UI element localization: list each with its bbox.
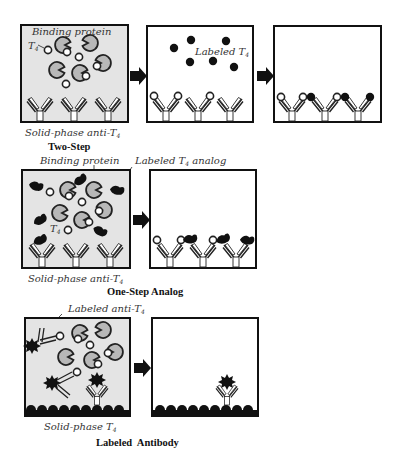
- label-labeled-t4: Labeled T4: [194, 46, 249, 58]
- label-labeled-anti-t4: Labeled anti-T4: [67, 303, 145, 315]
- title-one-step-analog: One-Step Analog: [107, 286, 184, 297]
- label-solid-phase-2: Solid-phase anti-T4: [28, 273, 123, 285]
- label-solid-phase-t4: Solid-phase T4: [44, 421, 117, 433]
- panel-labeled-antibody-wash: [152, 318, 258, 416]
- label-labeled-analog: Labeled T4 analog: [134, 155, 226, 167]
- label-solid-phase: Solid-phase anti-T4: [25, 127, 120, 139]
- row-two-step: Binding protein T4 Labeled T4: [21, 25, 381, 152]
- labeled-t4-icon: [170, 44, 178, 52]
- arrow-right-icon: [130, 67, 147, 85]
- title-labeled-antibody: Labeled Antibody: [96, 437, 180, 448]
- label-binding-protein: Binding protein: [31, 26, 111, 37]
- label-binding-protein-2: Binding protein: [39, 155, 119, 166]
- immunoassay-diagram: Binding protein T4 Labeled T4: [0, 0, 405, 457]
- row-one-step-analog: Binding protein Labeled T4 analog T4: [22, 155, 256, 297]
- t4-molecule-icon: [44, 46, 51, 53]
- title-two-step: Two-Step: [48, 141, 91, 152]
- row-labeled-antibody: Labeled anti-T4: [23, 303, 258, 448]
